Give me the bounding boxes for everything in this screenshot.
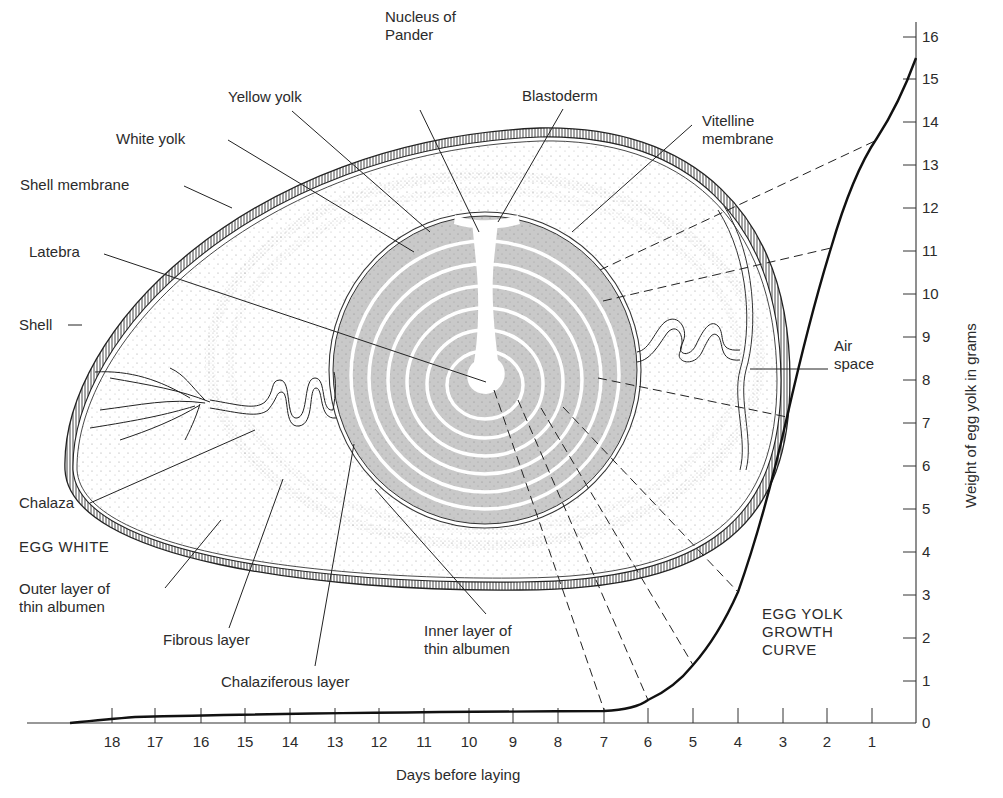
y-tick: 1	[922, 672, 930, 689]
y-tick: 4	[922, 543, 930, 560]
x-tick: 4	[734, 733, 742, 750]
label-white-yolk: White yolk	[116, 130, 185, 148]
x-tick: 9	[509, 733, 517, 750]
y-ticks	[903, 37, 916, 681]
label-yellow-yolk: Yellow yolk	[228, 88, 302, 106]
label-line: GROWTH	[762, 623, 843, 641]
x-tick: 12	[371, 733, 388, 750]
label-egg-white: EGG WHITE	[19, 538, 109, 556]
y-tick: 8	[922, 371, 930, 388]
y-tick: 16	[922, 28, 939, 45]
x-tick: 1	[868, 733, 876, 750]
y-tick: 6	[922, 457, 930, 474]
y-tick: 15	[922, 70, 939, 87]
x-tick: 17	[147, 733, 164, 750]
y-tick: 14	[922, 113, 939, 130]
label-line: membrane	[702, 130, 774, 148]
y-tick: 2	[922, 629, 930, 646]
x-tick: 2	[823, 733, 831, 750]
x-tick: 5	[689, 733, 697, 750]
y-tick: 12	[922, 199, 939, 216]
label-outer-thin-albumen: Outer layer of thin albumen	[19, 580, 110, 616]
y-tick: 10	[922, 285, 939, 302]
label-shell-membrane: Shell membrane	[20, 176, 129, 194]
label-line: thin albumen	[19, 598, 110, 616]
x-tick: 16	[193, 733, 210, 750]
label-blastoderm: Blastoderm	[522, 87, 598, 105]
y-tick: 13	[922, 156, 939, 173]
y-tick: 9	[922, 328, 930, 345]
label-line: Air	[834, 337, 874, 355]
label-line: thin albumen	[424, 640, 512, 658]
x-axis-label: Days before laying	[396, 766, 520, 784]
label-latebra: Latebra	[29, 243, 80, 261]
label-growth-curve: EGG YOLK GROWTH CURVE	[762, 605, 843, 659]
x-tick: 7	[600, 733, 608, 750]
label-chalaza: Chalaza	[19, 494, 74, 512]
y-tick: 3	[922, 586, 930, 603]
label-line: EGG YOLK	[762, 605, 843, 623]
label-line: Inner layer of	[424, 622, 512, 640]
x-tick: 14	[282, 733, 299, 750]
y-axis-label: Weight of egg yolk in grams	[962, 323, 979, 508]
x-tick: 15	[237, 733, 254, 750]
label-line: space	[834, 355, 874, 373]
label-inner-thin-albumen: Inner layer of thin albumen	[424, 622, 512, 658]
label-vitelline-membrane: Vitelline membrane	[702, 112, 774, 148]
label-chalaziferous-layer: Chalaziferous layer	[221, 673, 349, 691]
x-tick: 10	[461, 733, 478, 750]
y-tick: 11	[922, 242, 938, 259]
x-tick: 8	[554, 733, 562, 750]
label-shell: Shell	[19, 316, 52, 334]
x-tick: 11	[416, 733, 432, 750]
label-nucleus-of-pander: Nucleus of Pander	[385, 8, 456, 44]
y-tick: 0	[922, 714, 930, 731]
egg-diagram	[0, 0, 1003, 798]
x-tick: 6	[644, 733, 652, 750]
y-tick: 5	[922, 500, 930, 517]
label-line: Vitelline	[702, 112, 774, 130]
label-line: Outer layer of	[19, 580, 110, 598]
label-line: Nucleus of	[385, 8, 456, 26]
x-tick: 18	[104, 733, 121, 750]
label-line: CURVE	[762, 641, 843, 659]
label-fibrous-layer: Fibrous layer	[163, 631, 250, 649]
x-tick: 13	[327, 733, 344, 750]
label-line: Pander	[385, 26, 456, 44]
label-air-space: Air space	[834, 337, 874, 373]
yolk	[329, 212, 641, 528]
x-tick: 3	[779, 733, 787, 750]
y-tick: 7	[922, 414, 930, 431]
